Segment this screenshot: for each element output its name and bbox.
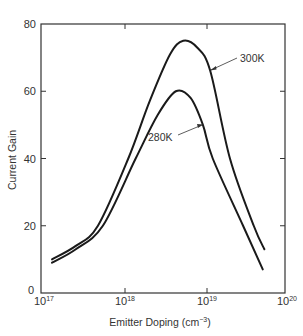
- y-tick-label: 20: [24, 220, 36, 232]
- plot-frame: [41, 24, 285, 293]
- y-tick-label: 80: [24, 18, 36, 30]
- series-280k-line: [52, 90, 263, 269]
- x-axis-ticks: 1017101810191020: [34, 24, 297, 307]
- annotation-300k: 300K: [210, 52, 265, 71]
- current-gain-chart: 020406080 1017101810191020 300K 280K Cur…: [0, 0, 303, 336]
- annot-280k-label: 280K: [148, 131, 173, 143]
- annotation-280k: 280K: [148, 124, 203, 143]
- arrowhead-280k: [197, 124, 203, 128]
- x-tick-label: 1019: [197, 295, 217, 307]
- x-tick-label: 1017: [34, 295, 54, 307]
- arrowhead-300k: [210, 66, 217, 71]
- x-tick-label: 1020: [277, 295, 297, 307]
- y-axis-title: Current Gain: [6, 130, 18, 190]
- series-300k-line: [52, 41, 264, 260]
- y-tick-label: 40: [24, 153, 36, 165]
- x-axis-title: Emitter Doping (cm−3): [109, 316, 210, 328]
- x-tick-label: 1018: [115, 295, 135, 307]
- annot-300k-label: 300K: [240, 52, 265, 64]
- y-tick-label: 60: [24, 85, 36, 97]
- data-series: [52, 41, 264, 270]
